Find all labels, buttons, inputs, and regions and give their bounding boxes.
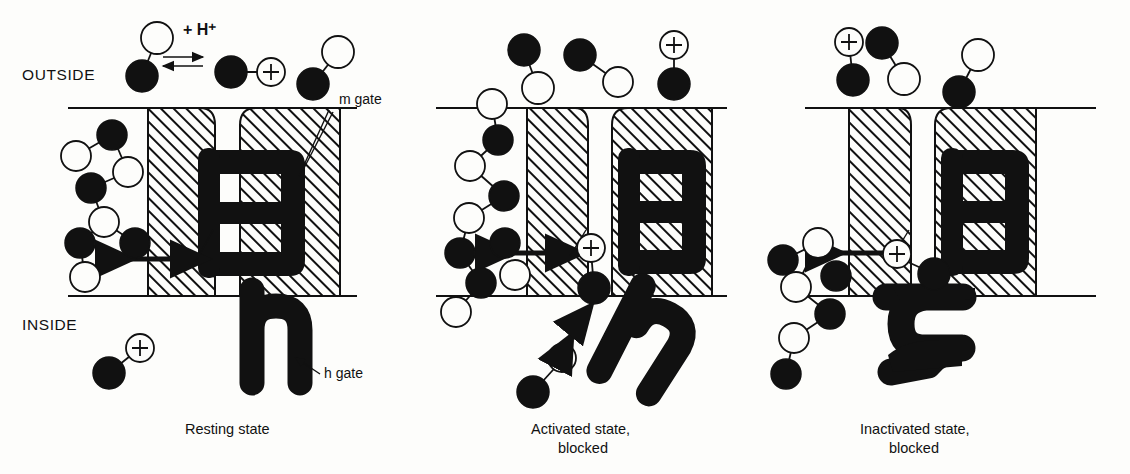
- molecule-lipophilic-tail: [93, 357, 125, 389]
- chain-node-white: [89, 207, 119, 237]
- chain-node-black: [489, 181, 519, 211]
- m-gate-glyph: [618, 148, 706, 276]
- label-proton-reaction: + H⁺: [183, 21, 216, 38]
- channel-gating-figure: OUTSIDE INSIDE + H⁺ m gate h gate Restin…: [0, 0, 1130, 474]
- molecule-polar-head: [962, 39, 994, 71]
- chain-node-white: [803, 228, 833, 258]
- chain-node-black: [65, 228, 95, 258]
- molecule-lipophilic-tail: [564, 39, 596, 71]
- molecule-lipophilic-tail: [508, 34, 540, 66]
- molecule-polar-head: [322, 36, 354, 68]
- molecule-polar-head: [141, 22, 173, 54]
- molecule-lipophilic-tail: [866, 27, 898, 59]
- molecule-lipophilic-tail: [297, 68, 329, 100]
- panel-caption-line2: blocked: [558, 440, 608, 456]
- chain-node-black: [445, 238, 475, 268]
- panel-caption-line1: Inactivated state,: [860, 421, 970, 437]
- chain-node-white: [455, 151, 485, 181]
- chain-node-white: [61, 141, 91, 171]
- chain-node-white: [70, 262, 100, 292]
- molecule-lipophilic-tail: [943, 76, 975, 108]
- chain-node-black: [768, 245, 798, 275]
- panel-caption-line2: blocked: [889, 440, 939, 456]
- molecule-polar-head: [603, 67, 633, 97]
- chain-node-black: [76, 173, 106, 203]
- label-inside: INSIDE: [22, 316, 77, 333]
- molecule-lipophilic-tail: [578, 272, 610, 304]
- molecule-lipophilic-tail: [658, 68, 690, 100]
- m-gate-glyph: [941, 148, 1029, 276]
- chain-node-white: [441, 297, 471, 327]
- label-outside: OUTSIDE: [22, 66, 95, 83]
- chain-node-black: [821, 261, 851, 291]
- molecule-lipophilic-tail: [215, 56, 247, 88]
- chain-node-black: [120, 228, 150, 258]
- chain-node-white: [779, 323, 809, 353]
- label-h-gate: h gate: [324, 365, 363, 381]
- chain-node-white: [113, 157, 143, 187]
- molecule-lipophilic-tail: [517, 376, 549, 408]
- panel-caption-line1: Activated state,: [531, 421, 630, 437]
- chain-node-white: [477, 89, 507, 119]
- chain-node-black: [466, 268, 496, 298]
- chain-node-black: [771, 359, 801, 389]
- chain-node-white: [781, 272, 811, 302]
- chain-node-black: [483, 125, 513, 155]
- molecule-polar-head: [888, 63, 920, 95]
- label-m-gate: m gate: [339, 91, 382, 107]
- chain-node-black: [490, 228, 520, 258]
- molecule-lipophilic-tail: [918, 258, 950, 290]
- panel-caption: Resting state: [185, 421, 270, 437]
- membrane-block-left: [527, 108, 588, 296]
- m-gate-glyph: [198, 148, 305, 278]
- chain-node-white: [454, 203, 484, 233]
- molecule-polar-head: [522, 72, 554, 104]
- chain-node-white: [500, 260, 530, 290]
- chain-node-black: [97, 120, 127, 150]
- molecule-lipophilic-tail: [126, 60, 158, 92]
- chain-node-black: [815, 299, 845, 329]
- molecule-lipophilic-tail: [837, 64, 869, 96]
